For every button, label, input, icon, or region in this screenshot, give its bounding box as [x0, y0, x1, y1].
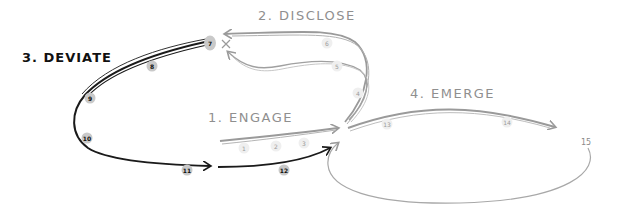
deviate-loop [74, 39, 330, 167]
step-node-13: 13 [382, 119, 393, 130]
step-node-14: 14 [502, 117, 513, 128]
step-node-15: 15 [581, 137, 592, 148]
step-node-7: 7 [204, 36, 216, 51]
step-node-11: 11 [182, 165, 193, 176]
step-node-9: 9 [85, 93, 96, 104]
return-ellipse [328, 143, 591, 203]
step-node-1: 1 [239, 143, 250, 154]
step-node-3: 3 [299, 138, 310, 149]
step-node-10: 10 [82, 133, 93, 144]
step-node-2: 2 [271, 141, 282, 152]
stage-label-disclose: 2. DISCLOSE [258, 8, 356, 23]
stage-label-deviate: 3. DEVIATE [22, 50, 112, 65]
step-node-6: 6 [322, 38, 333, 49]
step-node-8: 8 [147, 61, 158, 72]
step-node-5: 5 [332, 61, 343, 72]
step-node-4: 4 [353, 88, 364, 99]
emerge-arrow [348, 109, 555, 131]
stage-label-engage: 1. ENGAGE [208, 110, 293, 125]
step-node-12: 12 [279, 165, 290, 176]
stage-label-emerge: 4. EMERGE [410, 86, 495, 101]
flow-diagram-canvas [0, 0, 617, 216]
